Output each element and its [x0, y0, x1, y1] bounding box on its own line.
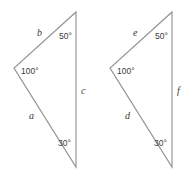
triangles-canvas: b a c 50° 100° 30° e d f 50° 100° 30°: [0, 0, 195, 178]
left-triangle-angle-left-label: 100°: [21, 66, 39, 76]
right-triangle-side-e-label: e: [133, 27, 138, 38]
right-triangle-side-f-label: f: [177, 85, 181, 96]
right-triangle-angle-apex-label: 50°: [155, 31, 168, 41]
right-triangle-side-d-label: d: [125, 110, 131, 121]
left-triangle-angle-bottom-label: 30°: [58, 138, 71, 148]
left-triangle-side-c-label: c: [81, 85, 86, 96]
left-triangle-angle-apex-label: 50°: [59, 31, 72, 41]
right-triangle-angle-left-label: 100°: [117, 66, 135, 76]
left-triangle: b a c 50° 100° 30°: [14, 12, 86, 167]
left-triangle-side-b-label: b: [37, 27, 42, 38]
geometry-figure: b a c 50° 100° 30° e d f 50° 100° 30°: [0, 0, 195, 178]
left-triangle-side-a-label: a: [29, 110, 34, 121]
right-triangle: e d f 50° 100° 30°: [110, 12, 181, 167]
right-triangle-angle-bottom-label: 30°: [154, 138, 167, 148]
